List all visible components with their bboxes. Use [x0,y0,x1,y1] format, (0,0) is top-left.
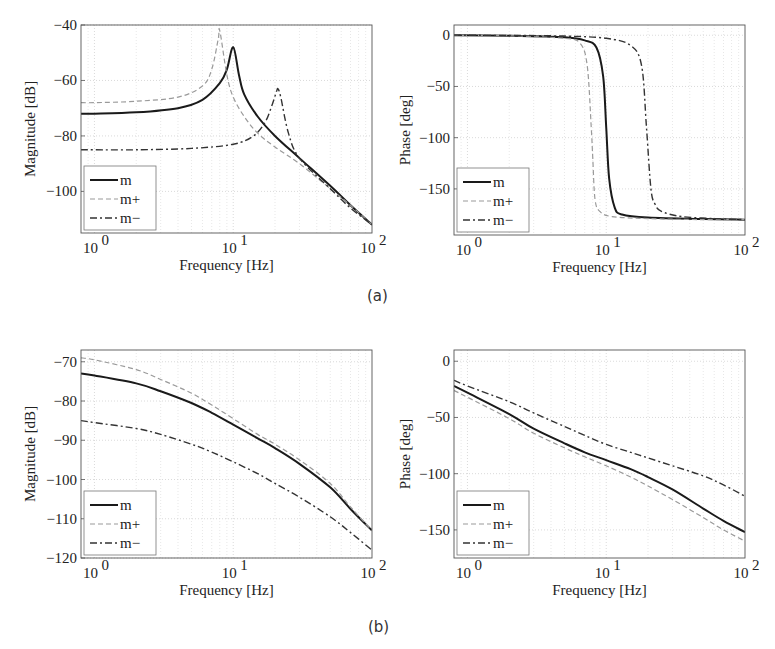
y-tick-label: −100 [419,466,450,482]
legend-label: m− [120,210,140,226]
y-axis-label: Phase [deg] [397,419,413,489]
y-tick-label: −110 [47,511,77,527]
y-tick-label: −120 [46,550,77,566]
legend-label: m [493,174,505,190]
legend-label: m+ [120,191,140,207]
chart-b-phase: 0−50−100−150100101102Frequency [Hz]Phase… [397,350,760,598]
svg-text:0: 0 [101,232,109,248]
x-tick-label: 10 [734,242,749,258]
x-axis-label: Frequency [Hz] [552,582,647,598]
chart-a-magnitude: −40−60−80−100100101102Frequency [Hz]Magn… [22,17,387,273]
legend-label: m [493,497,505,513]
svg-text:1: 1 [613,234,621,250]
y-tick-label: −50 [427,409,450,425]
x-tick-label: 10 [595,565,610,581]
caption-b: (b) [368,618,389,636]
svg-text:0: 0 [101,557,109,573]
svg-text:0: 0 [474,234,482,250]
legend-label: m+ [493,193,513,209]
svg-text:1: 1 [240,232,248,248]
legend-label: m− [493,535,513,551]
y-tick-label: −60 [54,72,77,88]
y-tick-label: −80 [54,128,77,144]
x-tick-label: 10 [595,242,610,258]
y-tick-label: −100 [46,183,77,199]
legend-label: m+ [493,516,513,532]
x-tick-label: 10 [361,565,376,581]
x-tick-label: 10 [83,240,98,256]
bode-figure: −40−60−80−100100101102Frequency [Hz]Magn… [0,0,775,649]
svg-text:0: 0 [474,557,482,573]
legend-label: m− [120,535,140,551]
y-tick-label: 0 [443,27,451,43]
x-tick-label: 10 [456,242,471,258]
legend: mm+m− [457,168,529,232]
svg-text:2: 2 [379,232,387,248]
legend: mm+m− [84,491,156,555]
x-tick-label: 10 [361,240,376,256]
y-tick-label: −80 [54,393,77,409]
svg-text:2: 2 [752,557,760,573]
svg-text:2: 2 [752,234,760,250]
legend-label: m [120,172,132,188]
y-tick-label: −40 [54,17,77,33]
legend-label: m [120,497,132,513]
y-tick-label: 0 [443,353,451,369]
x-tick-label: 10 [456,565,471,581]
y-axis-label: Phase [deg] [397,95,413,165]
y-tick-label: −100 [46,472,77,488]
y-tick-label: −150 [419,181,450,197]
y-tick-label: −150 [419,522,450,538]
legend: mm+m− [457,491,529,555]
y-tick-label: −70 [54,354,77,370]
legend-label: m+ [120,516,140,532]
y-tick-label: −90 [54,432,77,448]
y-tick-label: −50 [427,78,450,94]
x-tick-label: 10 [222,565,237,581]
x-tick-label: 10 [222,240,237,256]
x-tick-label: 10 [83,565,98,581]
y-tick-label: −100 [419,130,450,146]
y-axis-label: Magnitude [dB] [22,406,38,502]
legend: mm+m− [84,166,156,230]
svg-text:2: 2 [379,557,387,573]
x-axis-label: Frequency [Hz] [179,257,274,273]
chart-a-phase: 0−50−100−150100101102Frequency [Hz]Phase… [397,25,760,275]
svg-text:1: 1 [613,557,621,573]
legend-label: m− [493,212,513,228]
chart-b-magnitude: −70−80−90−100−110−120100101102Frequency … [22,350,387,598]
caption-a: (a) [367,287,388,305]
x-axis-label: Frequency [Hz] [179,582,274,598]
svg-text:1: 1 [240,557,248,573]
x-axis-label: Frequency [Hz] [552,259,647,275]
x-tick-label: 10 [734,565,749,581]
y-axis-label: Magnitude [dB] [22,81,38,177]
